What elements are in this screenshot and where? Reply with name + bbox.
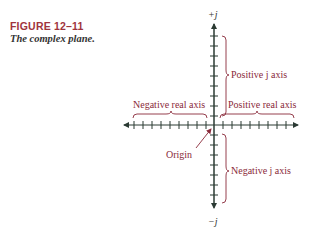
negative-j-axis-label: Negative j axis — [231, 165, 291, 176]
imaginary-axis — [210, 24, 218, 208]
origin-arrow — [196, 129, 211, 148]
negative-j-label: −j — [208, 216, 218, 227]
negative-real-axis-label: Negative real axis — [133, 99, 205, 110]
real-axis — [124, 121, 298, 129]
complex-plane-diagram: +j −j Positive j axis Negative j axis Po… — [0, 0, 318, 238]
positive-real-axis-label: Positive real axis — [228, 99, 296, 110]
origin-label: Origin — [166, 149, 192, 160]
positive-j-label: +j — [208, 9, 218, 20]
positive-j-axis-label: Positive j axis — [231, 69, 287, 80]
